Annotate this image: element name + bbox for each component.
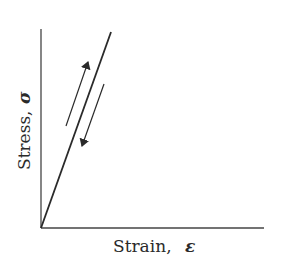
y-axis-label: Stress,: [14, 110, 34, 170]
y-axis-symbol: σ: [14, 91, 34, 104]
unloading-arrow: [82, 84, 104, 146]
x-axis-symbol: ε: [185, 236, 195, 256]
x-axis-label: Strain,: [113, 236, 172, 256]
stress-strain-diagram: Strain, ε Stress, σ: [0, 0, 285, 272]
loading-arrow: [66, 62, 88, 126]
elastic-line: [41, 32, 111, 228]
